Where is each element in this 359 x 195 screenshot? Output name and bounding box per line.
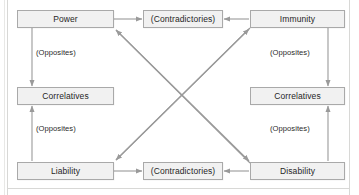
node-correlatives-left-label: Correlatives — [42, 91, 89, 101]
node-correlatives-left[interactable]: Correlatives — [17, 87, 114, 105]
opposites-bottom-left-text: (Opposites) — [36, 124, 76, 133]
node-liability-label: Liability — [51, 166, 80, 176]
node-disability-label: Disability — [280, 166, 315, 176]
node-immunity-label: Immunity — [280, 14, 315, 24]
node-contradictories-bottom[interactable]: (Contradictories) — [143, 162, 223, 180]
diagram-canvas: Power (Contradictories) Immunity Correla… — [0, 0, 359, 195]
node-immunity[interactable]: Immunity — [250, 10, 345, 28]
node-liability[interactable]: Liability — [17, 162, 114, 180]
edge-liability-to-immunity-diagonal — [116, 29, 249, 160]
edge-label-opposites-top-left: (Opposites) — [36, 48, 76, 57]
node-contradictories-top-label: (Contradictories) — [151, 14, 216, 24]
node-correlatives-right[interactable]: Correlatives — [250, 87, 345, 105]
opposites-bottom-right-text: (Opposites) — [270, 124, 310, 133]
node-power[interactable]: Power — [17, 10, 114, 28]
node-contradictories-bottom-label: (Contradictories) — [151, 166, 216, 176]
node-disability[interactable]: Disability — [250, 162, 345, 180]
node-contradictories-top[interactable]: (Contradictories) — [143, 10, 223, 28]
node-power-label: Power — [53, 14, 78, 24]
opposites-top-right-text: (Opposites) — [270, 48, 310, 57]
edge-label-opposites-bottom-left: (Opposites) — [36, 124, 76, 133]
edge-label-opposites-bottom-right: (Opposites) — [270, 124, 310, 133]
edge-label-opposites-top-right: (Opposites) — [270, 48, 310, 57]
edge-power-to-disability-diagonal — [116, 30, 249, 161]
opposites-top-left-text: (Opposites) — [36, 48, 76, 57]
node-correlatives-right-label: Correlatives — [274, 91, 321, 101]
